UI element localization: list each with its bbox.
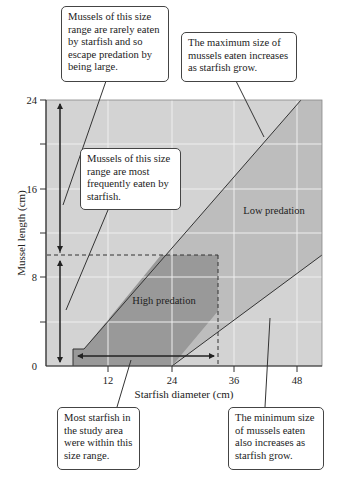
y-tick-label: 0 [32,361,37,372]
y-ticks [40,100,46,322]
x-tick-label: 24 [167,375,178,386]
y-tick-label: 8 [32,272,37,283]
x-tick-label: 48 [292,375,303,386]
y-tick-label: 16 [27,184,38,195]
callout-max-size: The maximum size of mussels eaten increa… [181,32,297,82]
high-predation-label: High predation [132,295,196,306]
callout-most-eaten: Mussels of this size range are most freq… [80,148,181,210]
y-axis-title: Mussel length (cm) [15,190,28,276]
low-predation-label: Low predation [243,205,305,216]
y-tick-label: 24 [27,95,38,106]
x-ticks [108,366,297,372]
callout-min-size: The minimum size of mussels eaten also i… [228,407,324,470]
x-tick-label: 12 [103,375,114,386]
x-axis-title: Starfish diameter (cm) [135,388,234,401]
callout-starfish-range: Most starfish in the study area were wit… [57,407,140,470]
x-tick-label: 36 [229,375,240,386]
callout-large-mussels: Mussels of this size range are rarely ea… [61,6,169,82]
